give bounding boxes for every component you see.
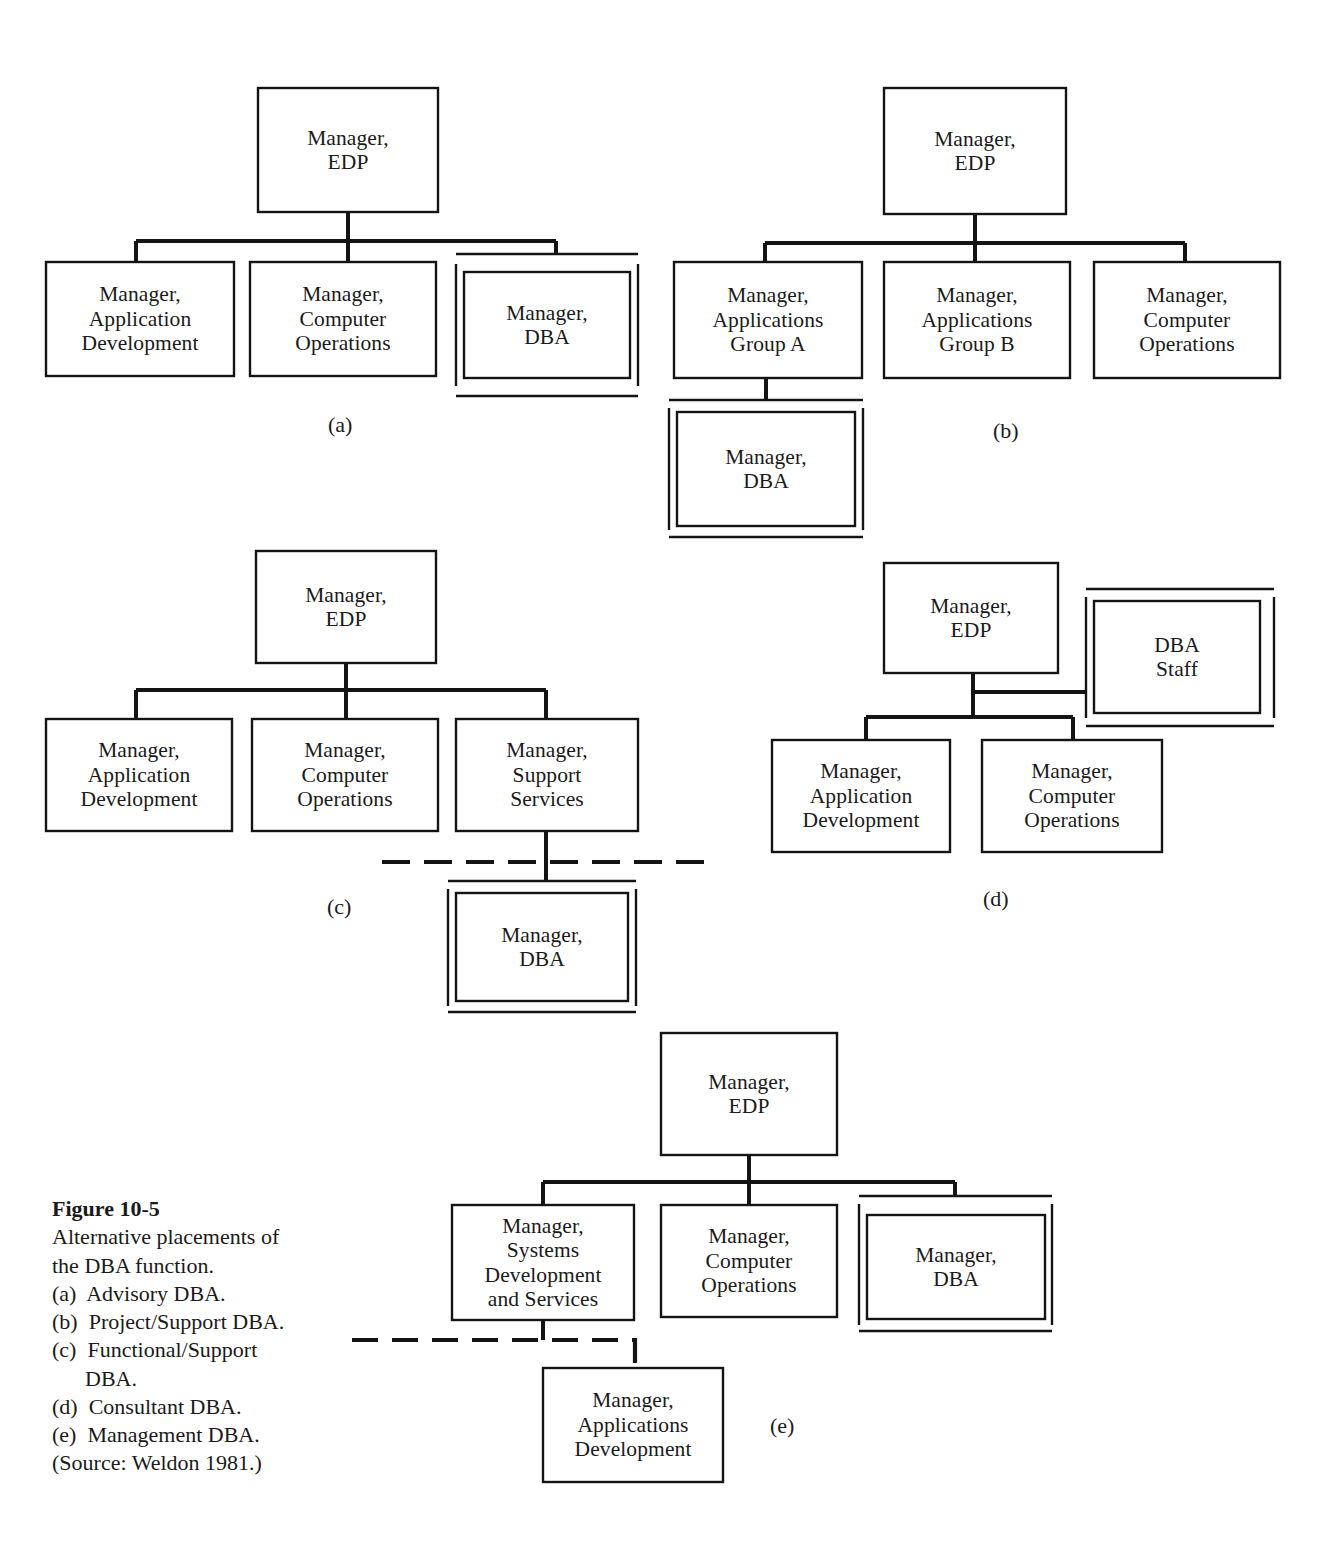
d-edp-box [884,563,1058,673]
diagram-c-caption-label: (c) [327,894,351,920]
b-compops-box [1094,262,1280,378]
d-appdev-box [772,740,950,852]
diagram-b-caption-label: (b) [993,418,1019,444]
figure-item-b: (b) Project/Support DBA. [52,1308,382,1336]
a-edp-box [258,88,438,212]
a-compops-box [250,262,436,376]
figure-caption: Figure 10-5 Alternative placements of th… [52,1195,382,1478]
figure-canvas: Manager, EDP Manager, Application Develo… [0,0,1325,1564]
b-dba-box [677,412,855,526]
e-dashed-branch [352,1340,635,1368]
e-dba-ghost-outline [859,1196,1052,1331]
e-appsdev-box [543,1368,723,1482]
a-dba-box [464,272,630,378]
c-edp-box [256,551,436,663]
e-edp-box [661,1033,837,1155]
figure-item-a: (a) Advisory DBA. [52,1280,382,1308]
b-groupa-box [674,262,862,378]
c-compops-box [252,719,438,831]
diagram-e-caption-label: (e) [770,1413,794,1439]
d-compops-box [982,740,1162,852]
figure-source: (Source: Weldon 1981.) [52,1449,382,1477]
a-dba-ghost-outline [456,254,638,396]
c-dba-ghost-outline [448,881,636,1012]
figure-desc-line-1: Alternative placements of [52,1223,382,1251]
c-support-box [456,719,638,831]
b-groupb-box [884,262,1070,378]
e-compops-box [661,1205,837,1317]
d-dbastaff-ghost-outline [1086,589,1274,726]
figure-item-d: (d) Consultant DBA. [52,1393,382,1421]
figure-item-c: (c) Functional/Support [52,1336,382,1364]
c-appdev-box [46,719,232,831]
diagram-a-caption-label: (a) [328,412,352,438]
d-dbastaff-box [1094,601,1260,713]
figure-item-e: (e) Management DBA. [52,1421,382,1449]
e-sysdev-box [452,1205,634,1320]
e-dba-box [867,1215,1045,1319]
figure-desc-line-2: the DBA function. [52,1252,382,1280]
diagram-d-caption-label: (d) [983,886,1009,912]
b-dba-ghost-outline [669,400,863,537]
c-dba-box [456,893,628,1001]
figure-number: Figure 10-5 [52,1195,382,1223]
a-appdev-box [46,262,234,376]
figure-item-c-cont: DBA. [52,1365,382,1393]
b-edp-box [884,88,1066,214]
